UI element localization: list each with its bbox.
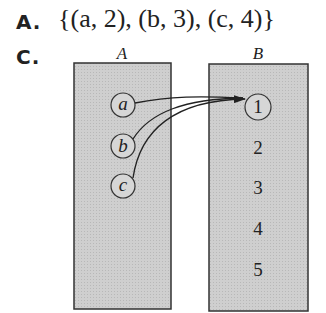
codomain-element-4: 4	[253, 218, 263, 239]
svg-text:a: a	[118, 93, 128, 114]
set-a-title: A	[116, 44, 128, 63]
codomain-element-3: 3	[253, 177, 263, 198]
codomain-element-5: 5	[253, 259, 263, 280]
svg-text:1: 1	[253, 96, 263, 117]
codomain-element-1: 1	[245, 94, 271, 120]
codomain-element-2: 2	[253, 137, 263, 158]
mapping-diagram: A B a b c 1 2 3 4 5	[0, 0, 326, 313]
domain-element-a: a	[111, 93, 135, 117]
set-b-title: B	[253, 44, 264, 63]
domain-element-b: b	[111, 134, 135, 158]
svg-text:b: b	[118, 135, 128, 156]
svg-text:c: c	[119, 174, 128, 195]
domain-element-c: c	[111, 174, 135, 198]
